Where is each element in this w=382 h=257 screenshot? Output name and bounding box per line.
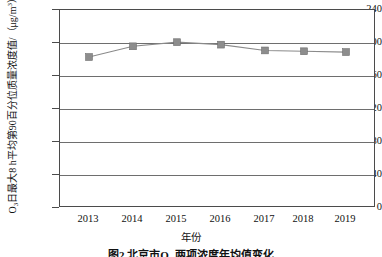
data-point-2018 xyxy=(301,48,308,55)
data-point-2019 xyxy=(343,49,350,56)
y-tick-mark xyxy=(52,42,59,43)
series-markers xyxy=(86,39,350,61)
series-plot xyxy=(60,10,376,208)
y-tick-mark xyxy=(52,9,59,10)
chart-figure: O3日最大8 h平均第90百分位质量浓度值/（μg/m3） 240 200 16… xyxy=(0,0,382,257)
y-axis-unit-superscript: 3 xyxy=(6,3,14,7)
y-tick-mark xyxy=(52,75,59,76)
y-axis-title-text: O3日最大8 h平均第90百分位质量浓度值/（μg/m3） xyxy=(7,0,18,214)
y-tick-mark xyxy=(52,207,59,208)
data-point-2013 xyxy=(86,54,93,61)
y-axis-title-subscript: 3 xyxy=(12,203,20,207)
y-tick-mark xyxy=(52,141,59,142)
y-axis-title: O3日最大8 h平均第90百分位质量浓度值/（μg/m3） xyxy=(5,4,22,214)
x-axis-title: 年份 xyxy=(0,229,382,244)
data-point-2016 xyxy=(218,41,225,48)
y-tick-mark xyxy=(52,174,59,175)
y-tick-mark xyxy=(52,108,59,109)
x-tick-label-2019: 2019 xyxy=(315,213,375,224)
data-point-2015 xyxy=(174,39,181,46)
data-point-2017 xyxy=(262,47,269,54)
plot-area xyxy=(59,9,375,207)
figure-caption: 图2 北京市O₃ 两项浓度年均值变化 xyxy=(0,246,382,257)
data-point-2014 xyxy=(130,43,137,50)
